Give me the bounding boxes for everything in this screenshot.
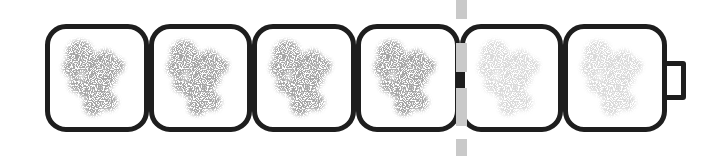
- film-cell: [149, 24, 253, 132]
- spray-blob-texture: [365, 33, 451, 123]
- spray-blob-texture: [54, 33, 140, 123]
- spray-blob-texture: [158, 33, 244, 123]
- battery-strip-illustration: [0, 0, 725, 156]
- cell-row: [45, 24, 667, 132]
- film-cell: [460, 24, 564, 132]
- film-cell: [563, 24, 667, 132]
- film-cell: [356, 24, 460, 132]
- film-cell: [45, 24, 149, 132]
- film-cell: [252, 24, 356, 132]
- spray-blob-texture: [572, 33, 658, 123]
- position-marker-bar: [456, 0, 467, 156]
- spray-blob-texture: [469, 33, 555, 123]
- spray-blob-texture: [261, 33, 347, 123]
